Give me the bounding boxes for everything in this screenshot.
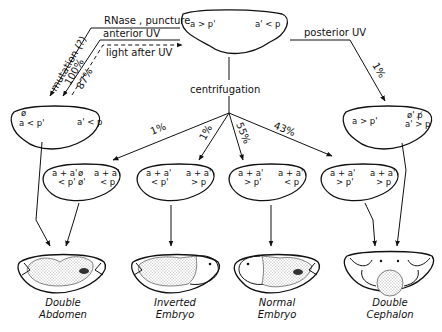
- top-egg: a > p' a' < p: [182, 10, 288, 54]
- caption-double-cephalon-2: Cephalon: [366, 309, 413, 320]
- centrifuge-percent-2: 1%: [197, 123, 214, 142]
- treatment-anterior-uv: anterior UV: [103, 28, 160, 39]
- caption-normal-1: Normal: [259, 297, 296, 308]
- centrifuge-percent-4: 43%: [272, 120, 297, 139]
- mid-egg-3: a + a' > p' a + a' < p: [229, 164, 306, 201]
- polarity-diagram: a > p' a' < p RNase , puncture anterior …: [0, 0, 442, 332]
- top-egg-right: a' < p: [255, 19, 280, 29]
- left-egg-left: a < p': [19, 118, 44, 128]
- embryo-normal: [234, 255, 319, 293]
- mid-egg-1: a + a' < p' ø ø' a + a' < p: [43, 164, 120, 201]
- mid-egg-4: a + a' > p' a + a' > p: [321, 164, 398, 201]
- left-egg-null: ø: [21, 108, 26, 118]
- top-egg-left: a > p': [190, 19, 215, 29]
- mid-egg-2-r2: > p: [191, 177, 206, 187]
- posterior-uv-arrow: [290, 40, 385, 101]
- mid-egg-1-l2: < p': [58, 177, 76, 187]
- posterior-uv-branch: posterior UV 1%: [290, 27, 388, 101]
- left-egg: ø a < p' a' < p: [11, 106, 102, 149]
- mid-egg-4-r2: > p: [376, 177, 391, 187]
- centrifuge-percent-3: 55%: [234, 121, 253, 146]
- centrifuge-percent-1: 1%: [149, 121, 168, 137]
- caption-double-abdomen-1: Double: [45, 297, 80, 308]
- mid-egg-1-r2: < p: [100, 177, 115, 187]
- mid-egg-1-c2: ø': [78, 177, 86, 187]
- mid-egg-2-l2: < p': [151, 177, 169, 187]
- embryo-double-cephalon: [344, 252, 433, 297]
- centrifuge-arrow-1: [113, 113, 229, 160]
- mid-egg-4-l2: > p': [336, 177, 354, 187]
- treatment-posterior-uv: posterior UV: [304, 27, 366, 38]
- centrifugation-branch: centrifugation 1% 1% 55% 43%: [113, 57, 332, 160]
- left-egg-right: a' < p: [77, 117, 102, 127]
- caption-double-cephalon-1: Double: [372, 297, 407, 308]
- right-egg-left: a > p': [352, 116, 377, 126]
- mid-egg-3-l2: > p': [244, 177, 262, 187]
- treatment-rnase: RNase , puncture: [104, 15, 190, 26]
- treatment-light-after-uv: light after UV: [106, 47, 172, 58]
- mid-egg-3-r2: < p: [284, 177, 299, 187]
- embryo-inverted: [132, 255, 220, 293]
- left-treatments: RNase , puncture anterior UV light after…: [48, 15, 190, 96]
- right-egg: a > p' ø' p̸ a' > p: [343, 106, 431, 149]
- caption-double-abdomen-2: Abdomen: [38, 309, 87, 320]
- mid-egg-2: a + a' < p' a + a' > p: [137, 164, 214, 201]
- posterior-percent: 1%: [370, 61, 387, 80]
- right-egg-right-bottom: a' > p: [405, 119, 430, 129]
- outcome-captions: Double Abdomen Inverted Embryo Normal Em…: [38, 297, 414, 320]
- caption-inverted-1: Inverted: [154, 297, 197, 308]
- caption-normal-2: Embryo: [258, 309, 297, 320]
- caption-inverted-2: Embryo: [156, 309, 195, 320]
- centrifugation-label: centrifugation: [190, 84, 260, 95]
- embryo-double-abdomen: [18, 255, 105, 293]
